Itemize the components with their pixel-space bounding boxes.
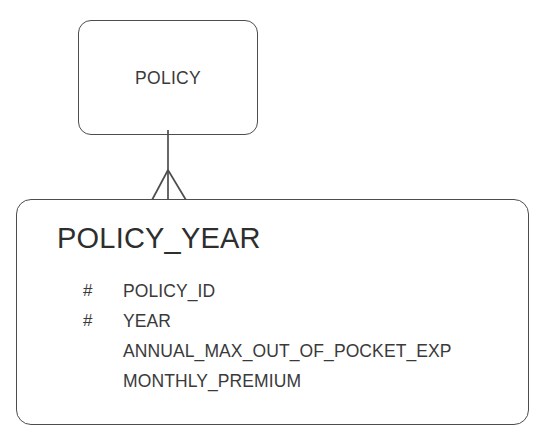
attribute-row[interactable]: # YEAR [57,306,514,336]
attribute-list-policy-year: # POLICY_ID # YEAR ANNUAL_MAX_OUT_OF_POC… [57,276,514,396]
entity-title-policy: POLICY [79,67,257,88]
attribute-name: ANNUAL_MAX_OUT_OF_POCKET_EXP [123,336,452,366]
er-diagram-canvas: POLICY POLICY_YEAR # POLICY_ID # YEAR AN… [0,0,542,441]
attribute-name: MONTHLY_PREMIUM [123,366,301,396]
attribute-row[interactable]: # POLICY_ID [57,276,514,306]
attribute-row[interactable]: MONTHLY_PREMIUM [57,366,514,396]
crows-foot-left-prong-icon [152,170,168,200]
attribute-row[interactable]: ANNUAL_MAX_OUT_OF_POCKET_EXP [57,336,514,366]
attribute-name: POLICY_ID [123,276,215,306]
attribute-name: YEAR [123,306,171,336]
crows-foot-right-prong-icon [168,170,186,200]
primary-key-marker-icon: # [83,276,103,306]
relationship-connector-policy-to-policy-year [140,130,200,206]
primary-key-marker-icon: # [83,306,103,336]
entity-title-policy-year: POLICY_YEAR [57,222,261,255]
entity-box-policy-year[interactable]: POLICY_YEAR # POLICY_ID # YEAR ANNUAL_MA… [16,199,529,425]
entity-box-policy[interactable]: POLICY [78,20,258,135]
